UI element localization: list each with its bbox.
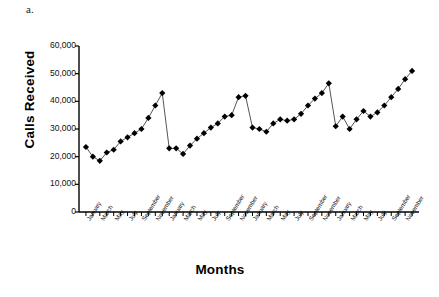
data-point xyxy=(124,134,130,140)
data-point xyxy=(229,112,235,118)
data-point-markers xyxy=(83,68,415,164)
axis-lines xyxy=(79,46,419,212)
data-point xyxy=(138,126,144,132)
data-point xyxy=(249,125,255,131)
data-point xyxy=(256,126,262,132)
data-point xyxy=(159,90,165,96)
data-line xyxy=(86,71,412,161)
calls-received-line-chart: Calls Received Months 010,00020,00030,00… xyxy=(0,0,439,297)
data-point xyxy=(145,115,151,121)
data-point xyxy=(277,116,283,122)
data-point xyxy=(242,93,248,99)
data-point xyxy=(131,130,137,136)
data-point xyxy=(235,94,241,100)
plot-svg xyxy=(0,0,439,297)
data-point xyxy=(166,145,172,151)
data-point xyxy=(152,102,158,108)
data-point xyxy=(284,118,290,124)
